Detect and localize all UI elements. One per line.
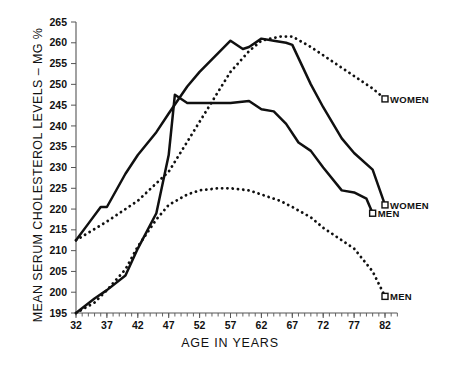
y-axis-tick-label: 260 [49,36,67,48]
x-axis-tick-label: 52 [194,319,206,331]
y-axis: 1952002052102152202252302352402452502552… [49,16,76,319]
series-line-solid-women-1 [76,39,385,241]
y-axis-tick-label: 195 [49,307,67,319]
y-axis-tick-label: 225 [49,182,67,194]
y-axis-tick-label: 210 [49,244,67,256]
series-line-solid-men-2 [76,95,373,313]
y-axis-tick-label: 230 [49,161,67,173]
data-series-group [76,37,385,313]
y-axis-tick-label: 255 [49,57,67,69]
x-axis: 3237424752576267727782 [70,313,397,331]
series-endpoint-marker-2 [370,210,376,216]
x-axis-tick-label: 72 [317,319,329,331]
x-axis-tick-label: 47 [163,319,175,331]
y-axis-tick-label: 240 [49,120,67,132]
series-endpoint-marker-0 [382,96,388,102]
y-axis-tick-label: 245 [49,99,67,111]
y-axis-title: MEAN SERUM CHOLESTEROL LEVELS – MG % [31,25,45,325]
x-axis-tick-label: 77 [348,319,360,331]
series-label-group: WOMENWOMENMENMEN [370,94,429,302]
chart-figure: MEAN SERUM CHOLESTEROL LEVELS – MG % AGE… [0,0,457,367]
y-axis-tick-label: 205 [49,265,67,277]
x-axis-tick-label: 37 [101,319,113,331]
x-axis-tick-label: 32 [70,319,82,331]
series-label-men-dotted: MEN [390,291,412,302]
series-label-men-solid: MEN [378,208,400,219]
y-axis-tick-label: 220 [49,203,67,215]
x-axis-title: AGE IN YEARS [120,336,340,350]
chart-plot-area: 1952002052102152202252302352402452502552… [0,0,457,367]
x-axis-tick-label: 67 [286,319,298,331]
x-axis-tick-label: 82 [379,319,391,331]
y-axis-tick-label: 265 [49,16,67,28]
y-axis-tick-label: 215 [49,223,67,235]
x-axis-tick-label: 62 [256,319,268,331]
y-axis-tick-label: 235 [49,140,67,152]
series-endpoint-marker-3 [382,293,388,299]
series-line-dotted-men-3 [76,188,385,313]
y-axis-tick-label: 200 [49,286,67,298]
series-label-women-dotted: WOMEN [390,94,429,105]
x-axis-tick-label: 42 [132,319,144,331]
x-axis-tick-label: 57 [225,319,237,331]
series-line-dotted-women-0 [76,37,385,241]
y-axis-tick-label: 250 [49,78,67,90]
